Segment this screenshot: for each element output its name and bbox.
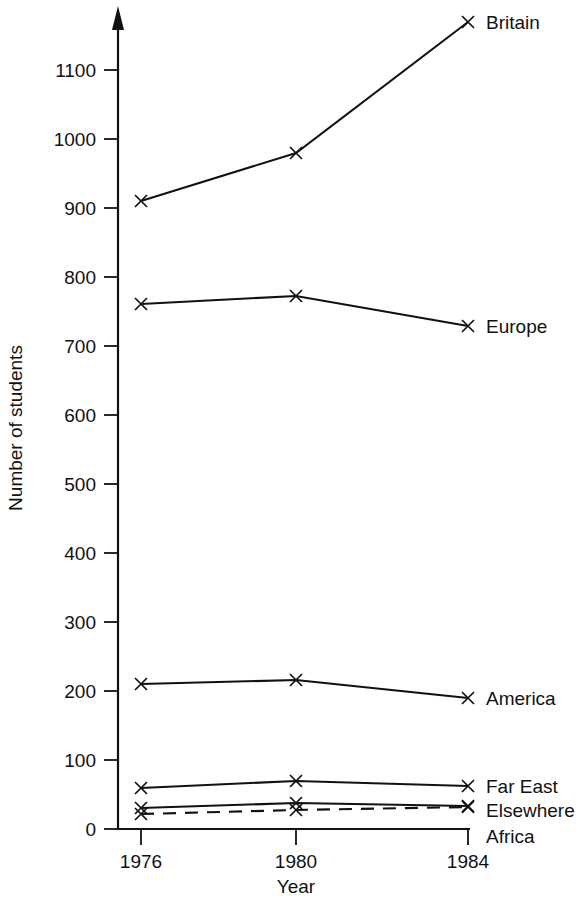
y-tick-label-200: 200: [64, 681, 96, 702]
series-america: America: [135, 674, 556, 709]
series-label-britain: Britain: [486, 12, 540, 33]
series-elsewhere-line: [141, 803, 468, 808]
series-label-far-east: Far East: [486, 776, 559, 797]
series-label-europe: Europe: [486, 316, 547, 337]
y-tick-label-100: 100: [64, 750, 96, 771]
series-elsewhere: Elsewhere: [135, 797, 575, 821]
x-tick-label-1980: 1980: [275, 851, 317, 872]
x-tick-marks: [141, 829, 468, 845]
series-europe: Europe: [135, 290, 547, 337]
series-europe-markers: [135, 290, 474, 332]
series-label-america: America: [486, 688, 556, 709]
series-label-africa: Africa: [486, 826, 535, 847]
chart-canvas: 0 100 200 300 400 500 600 700 800 900 10…: [0, 0, 582, 898]
x-axis-title: Year: [277, 876, 316, 897]
y-tick-label-600: 600: [64, 405, 96, 426]
series-label-elsewhere: Elsewhere: [486, 800, 575, 821]
x-tick-labels: 1976 1980 1984: [120, 851, 490, 872]
y-tick-label-700: 700: [64, 336, 96, 357]
y-tick-label-1100: 1100: [55, 60, 96, 81]
series-britain: Britain: [135, 12, 540, 207]
y-axis-title: Number of students: [5, 345, 26, 511]
y-tick-label-900: 900: [64, 198, 96, 219]
y-tick-label-0: 0: [85, 819, 96, 840]
y-tick-label-800: 800: [64, 267, 96, 288]
series-america-line: [141, 680, 468, 698]
y-tick-marks: [104, 70, 118, 829]
series-britain-line: [141, 22, 468, 201]
y-tick-label-500: 500: [64, 474, 96, 495]
y-axis-arrowhead: [112, 6, 124, 30]
series-britain-markers: [135, 16, 474, 207]
series-far-east-line: [141, 781, 468, 788]
y-tick-label-1000: 1000: [54, 129, 96, 150]
y-tick-labels: 0 100 200 300 400 500 600 700 800 900 10…: [54, 60, 96, 840]
axes-group: [112, 6, 470, 829]
x-tick-label-1984: 1984: [447, 851, 490, 872]
series-europe-line: [141, 296, 468, 326]
line-chart-figure: 0 100 200 300 400 500 600 700 800 900 10…: [0, 0, 582, 898]
y-tick-label-300: 300: [64, 612, 96, 633]
series-africa-line: [141, 807, 468, 814]
x-tick-label-1976: 1976: [120, 851, 162, 872]
y-tick-label-400: 400: [64, 543, 96, 564]
series-far-east: Far East: [135, 775, 559, 797]
series-africa: Africa: [135, 801, 535, 847]
series-america-markers: [135, 674, 474, 704]
